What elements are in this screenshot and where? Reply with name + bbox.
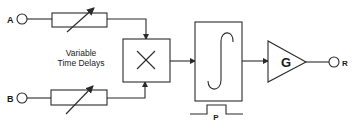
integrator-block xyxy=(195,22,242,101)
input-b-terminal-icon xyxy=(17,93,27,103)
amplifier-label: G xyxy=(281,55,291,70)
integrator-box xyxy=(195,22,242,101)
variable-delay-a xyxy=(52,8,107,32)
input-a: A xyxy=(7,14,52,25)
multiplier-block xyxy=(123,39,170,82)
delay-b-box xyxy=(51,90,107,105)
gate-pulse-label: P xyxy=(213,113,219,122)
delay-caption-line2: Time Delays xyxy=(58,58,105,68)
output-label: R xyxy=(342,59,348,68)
variable-delay-b xyxy=(51,86,107,114)
delay-caption-line1: Variable xyxy=(66,48,97,58)
input-b-label: B xyxy=(7,94,14,104)
output-terminal-icon xyxy=(329,57,339,67)
input-a-terminal-icon xyxy=(17,14,27,24)
wire-a-to-multiplier xyxy=(107,19,146,39)
input-b: B xyxy=(7,93,51,104)
amplifier-block: G xyxy=(268,41,306,82)
input-a-label: A xyxy=(7,15,14,25)
block-diagram: A B Variable Time Delays xyxy=(0,0,359,124)
gate-pulse: P xyxy=(190,105,243,122)
wire-b-to-multiplier xyxy=(107,82,145,98)
delay-a-box xyxy=(52,13,107,27)
